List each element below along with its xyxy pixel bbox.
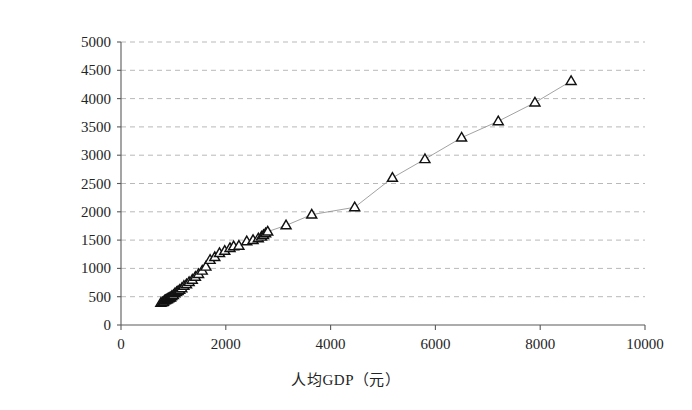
data-point-marker bbox=[350, 202, 360, 211]
x-axis-line bbox=[121, 325, 645, 330]
scatter-chart: 0500100015002000250030003500400045005000… bbox=[0, 0, 692, 410]
y-tick-label: 2500 bbox=[81, 176, 111, 192]
y-tick-label: 4000 bbox=[81, 91, 111, 107]
data-point-marker bbox=[493, 116, 503, 125]
y-tick-label: 1500 bbox=[81, 232, 111, 248]
series-polyline bbox=[161, 81, 571, 303]
chart-canvas: 0500100015002000250030003500400045005000… bbox=[0, 0, 692, 410]
x-tick-label: 2000 bbox=[211, 336, 241, 352]
x-tick-label: 4000 bbox=[316, 336, 346, 352]
x-tick-label: 10000 bbox=[626, 336, 664, 352]
x-tick-label: 0 bbox=[117, 336, 125, 352]
series-connector-line bbox=[161, 81, 571, 303]
y-tick-labels: 0500100015002000250030003500400045005000 bbox=[81, 34, 111, 333]
x-axis-title: 人均GDP（元） bbox=[0, 368, 692, 389]
data-point-markers bbox=[156, 76, 576, 306]
grid-lines bbox=[121, 42, 645, 297]
y-axis-line bbox=[117, 42, 121, 325]
x-tick-label: 6000 bbox=[420, 336, 450, 352]
y-tick-label: 4500 bbox=[81, 62, 111, 78]
x-tick-label: 8000 bbox=[525, 336, 555, 352]
data-point-marker bbox=[387, 173, 397, 182]
data-point-marker bbox=[281, 220, 291, 229]
data-point-marker bbox=[457, 132, 467, 141]
y-tick-label: 0 bbox=[104, 317, 112, 333]
y-tick-label: 1000 bbox=[81, 260, 111, 276]
data-point-marker bbox=[566, 76, 576, 85]
y-tick-label: 2000 bbox=[81, 204, 111, 220]
y-tick-label: 3500 bbox=[81, 119, 111, 135]
y-tick-label: 3000 bbox=[81, 147, 111, 163]
x-tick-labels: 0200040006000800010000 bbox=[117, 336, 664, 352]
y-tick-label: 500 bbox=[89, 289, 112, 305]
y-tick-label: 5000 bbox=[81, 34, 111, 50]
